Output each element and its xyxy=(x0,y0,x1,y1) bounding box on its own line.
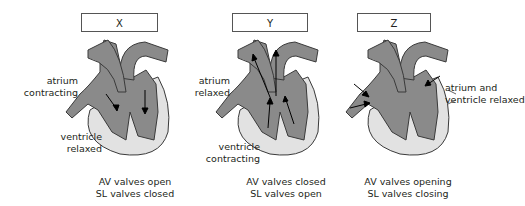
panel-z-label-box: Z xyxy=(357,13,431,32)
panel-y-label-box: Y xyxy=(232,13,308,32)
valves-y: AV valves closed SL valves open xyxy=(233,176,339,200)
annotation-y-atrium: atrium relaxed xyxy=(178,75,230,99)
annotation-z-atrium-ventricle: atrium and ventricle relaxed xyxy=(445,82,525,106)
annotation-x-atrium: atrium contracting xyxy=(18,75,78,99)
panel-y-label: Y xyxy=(267,18,273,29)
annotation-x-ventricle: ventricle relaxed xyxy=(50,131,102,155)
annotation-y-ventricle: ventricle contracting xyxy=(200,141,260,165)
valves-x: AV valves open SL valves closed xyxy=(85,176,185,200)
panel-x-label: X xyxy=(116,18,123,29)
panel-z-label: Z xyxy=(391,18,398,29)
valves-z: AV valves opening SL valves closing xyxy=(352,176,464,200)
panel-x-label-box: X xyxy=(81,13,158,32)
